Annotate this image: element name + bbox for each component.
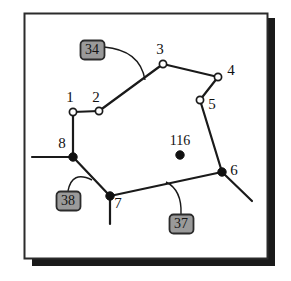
node-7[interactable] <box>106 192 114 200</box>
diagram-frame <box>25 14 268 259</box>
callout-box-shape-37 <box>170 215 194 234</box>
callout-box-shape-34 <box>81 41 105 60</box>
node-3[interactable] <box>159 60 166 67</box>
diagram-canvas: 12345678116 343837 <box>0 0 291 281</box>
node-8[interactable] <box>69 153 77 161</box>
node-116[interactable] <box>176 151 184 159</box>
callout-box-37[interactable]: 37 <box>170 215 194 234</box>
node-6[interactable] <box>218 168 226 176</box>
node-2[interactable] <box>95 107 102 114</box>
node-5[interactable] <box>196 96 203 103</box>
network-diagram-svg: 12345678116 343837 <box>0 0 291 281</box>
callout-box-34[interactable]: 34 <box>81 41 105 60</box>
node-4[interactable] <box>214 73 221 80</box>
callout-box-38[interactable]: 38 <box>57 192 81 211</box>
callout-box-shape-38 <box>57 192 81 211</box>
node-1[interactable] <box>69 108 76 115</box>
